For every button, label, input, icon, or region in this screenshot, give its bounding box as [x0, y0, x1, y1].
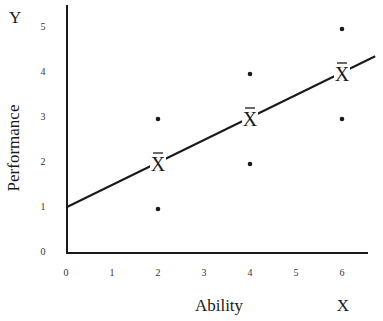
mean-x-bar-label: X [335, 63, 350, 85]
mean-marker: X [334, 62, 350, 85]
data-point [340, 27, 345, 32]
x-tick-label: 0 [64, 267, 69, 278]
y-tick-label: 4 [41, 66, 46, 77]
mean-marker: X [150, 152, 166, 175]
mean-x-bar-label: X [151, 153, 166, 175]
data-point [248, 72, 253, 77]
data-point [156, 117, 161, 122]
x-tick-label: 6 [340, 267, 345, 278]
data-point [248, 162, 253, 167]
x-tick-label: 5 [294, 267, 299, 278]
x-tick-label: 2 [156, 267, 161, 278]
scatter-chart: 012345 0123456 Y Performance Ability X X… [0, 0, 383, 321]
x-axis-title: Ability [195, 296, 244, 315]
axes [66, 5, 368, 253]
y-tick-labels: 012345 [41, 21, 46, 257]
x-tick-labels: 0123456 [64, 267, 345, 278]
x-tick-label: 4 [248, 267, 253, 278]
data-point [340, 117, 345, 122]
regression-line [67, 56, 375, 207]
x-variable-label: X [337, 296, 349, 315]
y-tick-label: 2 [41, 156, 46, 167]
mean-x-bar-label: X [243, 108, 258, 130]
x-tick-label: 1 [110, 267, 115, 278]
mean-markers: XXX [150, 62, 350, 175]
y-tick-label: 5 [41, 21, 46, 32]
y-tick-label: 3 [41, 111, 46, 122]
y-variable-label: Y [9, 8, 21, 27]
mean-marker: X [242, 107, 258, 130]
y-axis-title: Performance [4, 105, 23, 192]
y-tick-label: 0 [41, 246, 46, 257]
y-tick-label: 1 [41, 201, 46, 212]
data-point [156, 207, 161, 212]
x-tick-label: 3 [202, 267, 207, 278]
